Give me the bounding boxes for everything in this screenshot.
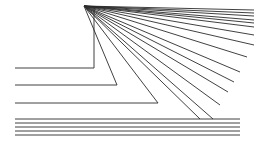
figure-canvas bbox=[0, 0, 254, 144]
line-art-svg bbox=[0, 0, 254, 144]
background-rect bbox=[0, 0, 254, 144]
